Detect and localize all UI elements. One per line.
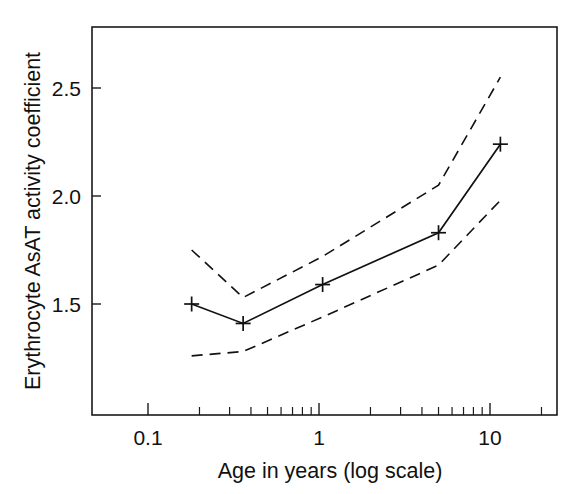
y-axis-title: Erythrocyte AsAT activity coefficient <box>21 52 45 390</box>
data-point-markers <box>184 137 508 331</box>
chart-figure: 1.52.02.5 0.1110 Age in years (log scale… <box>0 0 571 494</box>
y-tick-label: 1.5 <box>52 293 81 316</box>
confidence-limit-polyline <box>192 200 501 356</box>
x-tick-label: 1 <box>313 426 325 449</box>
x-tick-label: 0.1 <box>133 426 162 449</box>
plus-marker <box>315 277 330 292</box>
plus-marker <box>493 137 508 152</box>
plot-frame <box>92 27 557 415</box>
y-tick-label: 2.5 <box>52 77 81 100</box>
plus-marker <box>431 225 446 240</box>
confidence-band-lines <box>192 77 501 356</box>
mean-polyline <box>192 144 501 323</box>
y-axis-tick-labels: 1.52.02.5 <box>52 77 81 316</box>
y-tick-label: 2.0 <box>52 185 81 208</box>
confidence-limit-polyline <box>192 77 501 297</box>
line-chart-canvas: 1.52.02.5 0.1110 Age in years (log scale… <box>0 0 571 494</box>
mean-series-line <box>192 144 501 323</box>
plus-marker <box>236 316 251 331</box>
x-axis-title: Age in years (log scale) <box>218 459 443 483</box>
x-axis-tick-labels: 0.1110 <box>133 426 501 449</box>
y-axis-ticks <box>92 88 101 304</box>
plus-marker <box>184 297 199 312</box>
x-tick-label: 10 <box>478 426 501 449</box>
